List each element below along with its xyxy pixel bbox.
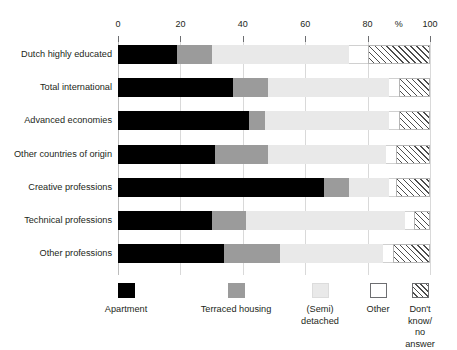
- bar-segment-other: [383, 244, 392, 263]
- category-label: Creative professions: [0, 182, 112, 193]
- bar-segment-dontknow: [396, 145, 430, 164]
- bar-row: [118, 178, 430, 197]
- bar-segment-apartment: [118, 211, 212, 230]
- category-label: Total international: [0, 82, 112, 93]
- legend-swatch-other: [370, 283, 387, 298]
- category-labels: Dutch highly educatedTotal international…: [0, 42, 112, 275]
- bar-row: [118, 45, 430, 64]
- legend-label: (Semi) detached: [301, 304, 339, 327]
- bar-segment-dontknow: [368, 45, 430, 64]
- gridline: [430, 42, 431, 275]
- x-axis-unit-label: %: [395, 19, 403, 30]
- x-axis-tick-label: 40: [238, 19, 248, 30]
- x-axis-tick-label: 100: [422, 19, 437, 30]
- bar-segment-semidetached: [349, 178, 390, 197]
- bar-segment-dontknow: [399, 78, 430, 97]
- bar-segment-dontknow: [396, 178, 430, 197]
- x-axis-tick-label: 20: [175, 19, 185, 30]
- bar-segment-semidetached: [268, 145, 387, 164]
- bar-segment-apartment: [118, 78, 233, 97]
- bar-segment-apartment: [118, 244, 224, 263]
- bar-row: [118, 211, 430, 230]
- legend-label: Other: [367, 304, 390, 316]
- chart-legend: ApartmentTerraced housing(Semi) detached…: [0, 283, 457, 334]
- category-label: Advanced economies: [0, 115, 112, 126]
- legend-swatch-terraced: [228, 283, 245, 298]
- legend-label: Terraced housing: [201, 304, 271, 316]
- legend-label: Apartment: [105, 304, 147, 316]
- bar-segment-semidetached: [265, 111, 390, 130]
- category-label: Other professions: [0, 248, 112, 259]
- bar-segment-terraced: [215, 145, 268, 164]
- legend-swatch-apartment: [118, 283, 135, 298]
- legend-item: (Semi) detached: [312, 283, 358, 327]
- category-label: Dutch highly educated: [0, 49, 112, 60]
- x-axis: 020406080100%: [118, 36, 430, 37]
- legend-item: Don't know/ no answer: [412, 283, 457, 350]
- legend-item: Apartment: [118, 283, 168, 316]
- bar-segment-dontknow: [414, 211, 430, 230]
- bar-segment-apartment: [118, 145, 215, 164]
- bar-segment-apartment: [118, 111, 249, 130]
- bar-segment-apartment: [118, 45, 177, 64]
- bar-segment-other: [386, 145, 395, 164]
- bar-segment-other: [389, 111, 398, 130]
- x-axis-tick-label: 0: [115, 19, 120, 30]
- bar-segment-semidetached: [280, 244, 383, 263]
- bar-segment-terraced: [212, 211, 246, 230]
- bar-row: [118, 78, 430, 97]
- bar-segment-semidetached: [246, 211, 405, 230]
- x-axis-tick-label: 60: [300, 19, 310, 30]
- bar-segment-other: [389, 78, 398, 97]
- bar-segment-other: [405, 211, 414, 230]
- bar-segment-terraced: [177, 45, 211, 64]
- bar-segment-semidetached: [212, 45, 349, 64]
- bar-segment-terraced: [233, 78, 267, 97]
- bar-row: [118, 111, 430, 130]
- legend-swatch-dontknow: [412, 283, 429, 298]
- bar-segment-dontknow: [393, 244, 430, 263]
- legend-item: Other: [370, 283, 401, 316]
- bar-segment-apartment: [118, 178, 324, 197]
- legend-label: Don't know/ no answer: [402, 304, 439, 350]
- legend-item: Terraced housing: [228, 283, 306, 316]
- plot-area: [118, 42, 430, 275]
- legend-swatch-semidetached: [312, 283, 329, 298]
- bar-segment-terraced: [224, 244, 280, 263]
- x-axis-tick-label: 80: [363, 19, 373, 30]
- bar-segment-dontknow: [399, 111, 430, 130]
- bar-row: [118, 145, 430, 164]
- bar-segment-semidetached: [268, 78, 390, 97]
- bar-segment-other: [349, 45, 368, 64]
- category-label: Other countries of origin: [0, 149, 112, 160]
- bar-row: [118, 244, 430, 263]
- category-label: Technical professions: [0, 215, 112, 226]
- bar-segment-terraced: [249, 111, 265, 130]
- bar-segment-terraced: [324, 178, 349, 197]
